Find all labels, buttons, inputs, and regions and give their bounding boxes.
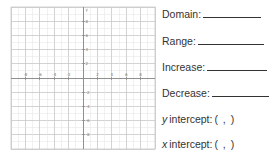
x-tick-label: 4 — [111, 72, 114, 77]
domain-label: Domain: — [162, 8, 201, 20]
range-field: Range: — [162, 35, 264, 47]
domain-blank[interactable] — [203, 8, 261, 18]
x-tick-label: -6 — [38, 72, 42, 77]
decrease-blank[interactable] — [212, 87, 269, 97]
y-axis-label: y — [86, 7, 89, 12]
y-tick-label: -6 — [86, 118, 90, 123]
increase-blank[interactable] — [207, 61, 267, 71]
range-blank[interactable] — [198, 35, 264, 45]
increase-label: Increase: — [162, 61, 205, 73]
grid-canvas: -8-6-4-224688642-2-4-6-8y — [0, 0, 160, 159]
x-intercept-field: x intercept: ( , ) — [162, 138, 235, 150]
domain-field: Domain: — [162, 8, 261, 20]
x-tick-label: 8 — [139, 72, 142, 77]
range-label: Range: — [162, 35, 196, 47]
y-intercept-label: intercept: — [169, 113, 212, 125]
x-intercept-label: intercept: — [169, 138, 212, 150]
y-intercept-field: y intercept: ( , ) — [162, 113, 235, 125]
x-tick-label: -8 — [23, 72, 27, 77]
x-intercept-value[interactable]: ( , ) — [214, 138, 235, 150]
x-tick-label: 2 — [96, 72, 99, 77]
increase-field: Increase: — [162, 61, 267, 73]
y-intercept-var: y — [162, 113, 167, 125]
x-intercept-var: x — [162, 138, 167, 150]
worksheet-panel: Domain: Range: Increase: Decrease: y int… — [162, 0, 275, 159]
x-tick-label: 6 — [125, 72, 128, 77]
decrease-label: Decrease: — [162, 87, 210, 99]
y-tick-label: -2 — [86, 90, 90, 95]
x-tick-label: -4 — [52, 72, 56, 77]
decrease-field: Decrease: — [162, 87, 269, 99]
y-intercept-value[interactable]: ( , ) — [214, 113, 235, 125]
y-tick-label: -8 — [86, 132, 90, 137]
y-tick-label: -4 — [86, 104, 90, 109]
x-tick-label: -2 — [67, 72, 71, 77]
coordinate-grid: -8-6-4-224688642-2-4-6-8y — [0, 0, 160, 159]
